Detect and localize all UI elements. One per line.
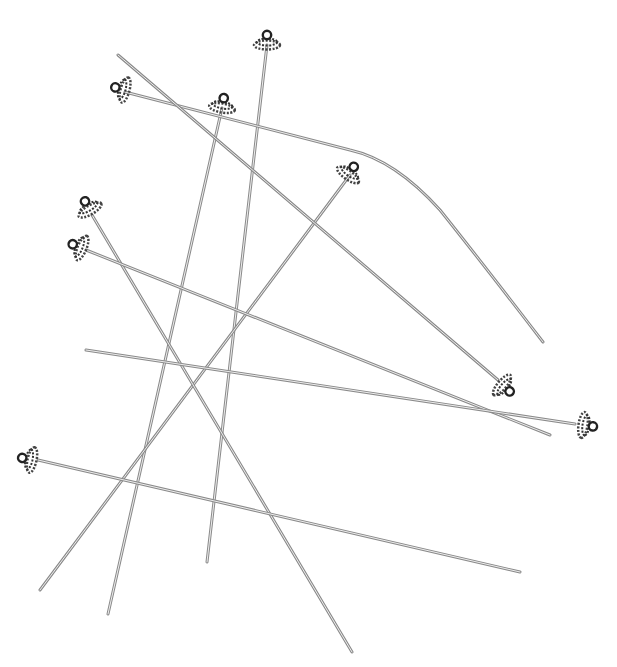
photo-stage: Decorative head pins with beaded ends	[0, 0, 617, 667]
pin-1	[207, 45, 267, 562]
pin-head-2	[208, 92, 237, 115]
pin-head-8	[577, 412, 599, 440]
pin-head-9	[15, 444, 39, 473]
pin-9	[38, 460, 520, 572]
pin-7	[118, 55, 498, 380]
pin-5	[92, 215, 352, 652]
pin-head-3	[108, 74, 133, 104]
head-pins-illustration	[0, 0, 617, 667]
pin-3	[125, 92, 543, 342]
pin-head-5	[72, 191, 104, 220]
pin-head-6	[64, 231, 91, 262]
pin-head-4	[335, 156, 367, 186]
